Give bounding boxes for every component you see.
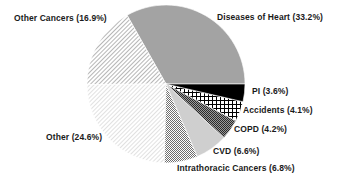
label-cvd: CVD (6.6%) xyxy=(213,146,259,156)
pie-chart xyxy=(0,0,341,181)
pie-slice-other xyxy=(87,84,166,163)
pie-slices xyxy=(87,5,245,163)
label-copd: COPD (4.2%) xyxy=(234,124,287,134)
label-heart: Diseases of Heart (33.2%) xyxy=(217,12,323,22)
label-pi: PI (3.6%) xyxy=(252,86,288,96)
label-other-cancers: Other Cancers (16.9%) xyxy=(14,13,107,23)
label-intrathoracic: Intrathoracic Cancers (6.8%) xyxy=(177,163,295,173)
label-accidents: Accidents (4.1%) xyxy=(243,105,313,115)
label-other: Other (24.6%) xyxy=(46,132,102,142)
